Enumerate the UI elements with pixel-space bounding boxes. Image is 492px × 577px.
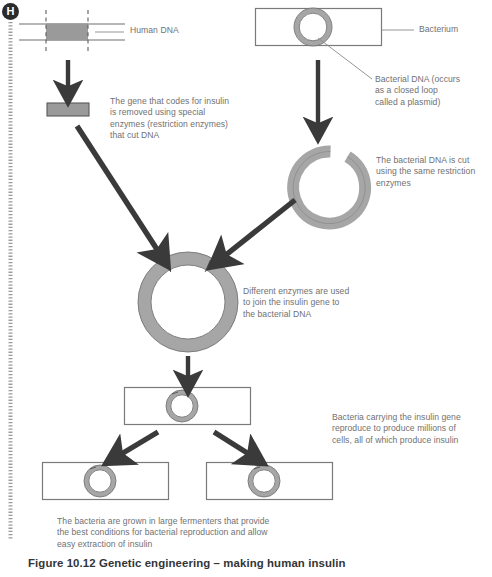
bacterium-top bbox=[256, 8, 415, 79]
label-join-gene: Different enzymes are used to join the i… bbox=[243, 286, 349, 320]
recombinant-plasmid bbox=[138, 252, 238, 352]
human-dna-strand bbox=[19, 10, 125, 54]
label-dna-cut: The bacterial DNA is cut using the same … bbox=[376, 155, 475, 189]
arrow-plasmid-to-recombinant bbox=[222, 200, 295, 258]
bacterial-dna-leader bbox=[318, 38, 372, 79]
figure-caption: Figure 10.12 Genetic engineering – makin… bbox=[28, 556, 346, 570]
plasmid-ring bbox=[297, 11, 330, 44]
bacterium-transformed bbox=[125, 388, 251, 425]
arrow-divide-right bbox=[214, 432, 252, 456]
label-gene-removed: The gene that codes for insulin is remov… bbox=[110, 96, 229, 142]
arrow-divide-left bbox=[118, 432, 158, 456]
bacterium-daughter-left bbox=[43, 463, 169, 500]
label-human-dna: Human DNA bbox=[130, 25, 179, 36]
label-fermenters: The bacteria are grown in large fermente… bbox=[57, 516, 269, 550]
insulin-gene-fragment bbox=[47, 103, 89, 116]
label-bacterial-dna: Bacterial DNA (occurs as a closed loop c… bbox=[375, 74, 460, 108]
arrow-gene-to-recombinant bbox=[77, 126, 160, 254]
bacterium-daughter-right bbox=[207, 463, 333, 500]
cut-plasmid bbox=[293, 152, 365, 224]
label-reproduce: Bacteria carrying the insulin gene repro… bbox=[332, 412, 461, 446]
figure-page: H bbox=[0, 0, 492, 577]
label-bacterium: Bacterium bbox=[419, 24, 458, 35]
